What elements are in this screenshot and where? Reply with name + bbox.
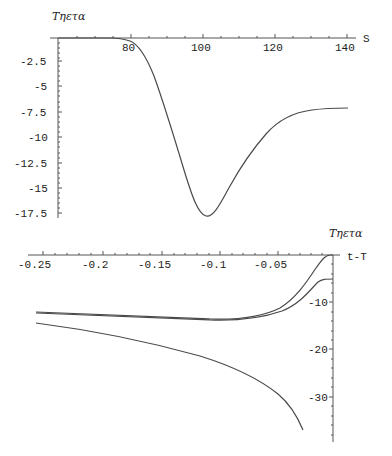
bottom-curve-upper [36,255,333,319]
bottom-x-ticks [43,251,322,255]
bottom-y-tick-label: -30 [308,392,328,404]
figure-canvas: Τηετα S 80 100 120 140 [0,0,392,456]
bottom-x-tick-label: -0.05 [254,259,287,271]
top-chart: Τηετα S 80 100 120 140 [14,10,370,220]
top-x-tick-label: 100 [191,42,211,54]
top-y-tick-label: -2.5 [20,56,46,68]
bottom-y-axis-label: Τηετα [329,227,363,240]
top-y-tick-label: -7.5 [20,107,46,119]
bottom-x-tick-label: -0.2 [82,259,108,271]
top-y-ticks [58,43,62,213]
bottom-y-ticks [329,264,333,435]
bottom-x-tick-label: -0.25 [18,259,51,271]
top-y-axis-label: Τηετα [52,10,86,23]
bottom-x-axis-label: t-T [347,251,367,263]
bottom-x-tick-label: -0.1 [200,259,227,271]
top-x-tick-label: 80 [122,42,135,54]
top-y-tick-label: -17.5 [14,208,47,220]
top-x-ticks [77,34,347,38]
top-curve-theta [58,38,348,216]
top-x-axis-label: S [363,33,370,45]
bottom-y-tick-label: -20 [308,344,328,356]
top-y-tick-label: -15 [28,183,48,195]
bottom-x-tick-label: -0.15 [138,259,171,271]
top-x-tick-label: 120 [263,42,283,54]
bottom-chart: Τηετα t-T -0.25 -0.2 -0.15 -0.1 -0.05 [18,227,367,442]
bottom-curve-lower [36,323,303,430]
top-x-tick-label: 140 [335,42,355,54]
top-y-tick-label: -12.5 [14,158,47,170]
top-y-tick-label: -5 [34,81,47,93]
top-y-tick-label: -10 [28,132,48,144]
bottom-y-tick-label: -10 [308,297,328,309]
